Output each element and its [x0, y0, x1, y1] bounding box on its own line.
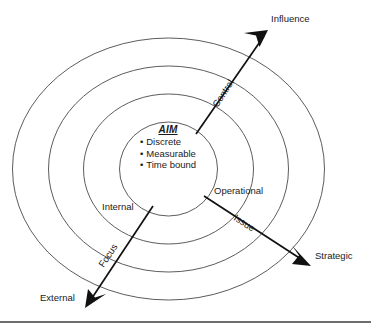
core-aim-bullet: Time bound [140, 159, 196, 171]
diagram-canvas: AIM Discrete Measurable Time bound Influ… [0, 0, 371, 332]
core-aim-block: AIM Discrete Measurable Time bound [118, 124, 218, 172]
label-influence: Influence [271, 13, 310, 24]
core-aim-bullet: Measurable [140, 148, 196, 160]
label-internal: Internal [102, 201, 134, 212]
core-aim-bullet: Discrete [140, 136, 196, 148]
label-operational: Operational [214, 185, 263, 196]
label-external: External [40, 292, 75, 303]
label-strategic: Strategic [315, 250, 353, 261]
control-arrow-head [244, 30, 268, 47]
core-aim-title: AIM [118, 124, 218, 135]
core-aim-bullet-list: Discrete Measurable Time bound [140, 136, 196, 171]
